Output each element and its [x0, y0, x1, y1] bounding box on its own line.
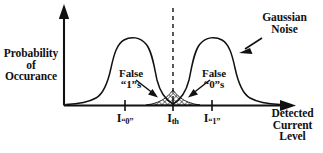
false-zeros-label: False “0”s — [192, 68, 236, 90]
x-axis-title-line-1: Detected — [262, 108, 323, 120]
false-ones-line-2: “1”s — [110, 79, 152, 90]
gaussian-noise-arrow — [239, 38, 262, 54]
false-ones-label: False “1”s — [110, 68, 152, 90]
x-axis-title-line-3: Level — [262, 131, 323, 143]
y-axis-title: Probability of Occurance — [0, 48, 62, 83]
tick-label-i-one-sub: “1” — [208, 116, 220, 126]
gaussian-noise-figure: Probability of Occurance Detected Curren… — [0, 0, 323, 153]
tick-label-i-zero-sub: “0” — [121, 116, 133, 126]
gaussian-noise-line-2: Noise — [246, 24, 323, 36]
x-axis-title: Detected Current Level — [262, 108, 323, 143]
gaussian-noise-label: Gaussian Noise — [246, 12, 323, 35]
y-axis-title-line-3: Occurance — [0, 71, 62, 83]
y-axis-title-line-1: Probability — [0, 48, 62, 60]
tick-label-i-threshold: Ith — [152, 112, 194, 124]
false-zeros-line-2: “0”s — [192, 79, 236, 90]
tick-label-i-threshold-sub: th — [172, 116, 179, 126]
tick-label-i-one: I“1” — [191, 112, 233, 124]
tick-label-i-zero: I“0” — [104, 112, 146, 124]
gaussian-noise-line-1: Gaussian — [246, 12, 323, 24]
